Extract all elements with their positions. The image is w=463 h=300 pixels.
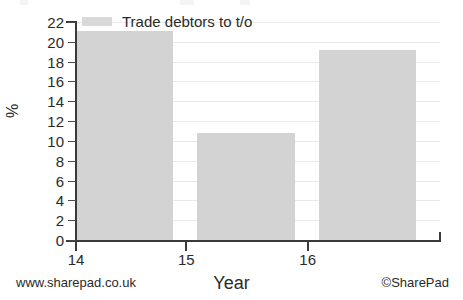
x-tick-label: 15 [166,252,206,267]
y-tick-mark [68,101,76,102]
plot-area [76,22,440,240]
y-tick-label: 22 [18,15,64,30]
y-tick-mark [68,181,76,182]
legend-label: Trade debtors to t/o [122,14,252,29]
y-tick-mark [68,62,76,63]
bar [319,50,416,240]
y-tick-label: 12 [18,114,64,129]
y-tick-label: 8 [18,154,64,169]
y-tick-mark [68,121,76,122]
footer-website: www.sharepad.co.uk [16,276,136,289]
x-tick-label: 14 [56,252,96,267]
y-tick-label: 16 [18,74,64,89]
y-tick-mark [68,240,76,241]
y-tick-label: 6 [18,174,64,189]
y-tick-mark [68,220,76,221]
y-tick-label: 14 [18,94,64,109]
y-tick-mark [68,42,76,43]
y-axis-line [75,21,77,242]
y-tick-label: 2 [18,213,64,228]
y-tick-label: 18 [18,55,64,70]
chart-legend: Trade debtors to t/o [82,14,252,29]
x-tick-mark [307,242,309,251]
x-tick-mark [75,242,77,251]
y-axis-title: % [4,104,22,118]
footer-copyright: ©SharePad [382,276,449,289]
scan-artifact [20,0,28,5]
legend-swatch-icon [82,17,112,26]
y-tick-label: 4 [18,193,64,208]
scan-artifact [180,0,194,5]
y-tick-mark [68,200,76,201]
scan-artifact [240,0,250,5]
bar [197,133,294,240]
x-tick-label: 16 [288,252,328,267]
y-tick-label: 0 [18,233,64,248]
chart-container: 0246810121416182022 141516 % Year Trade … [0,0,463,300]
y-tick-mark [68,141,76,142]
bar [76,31,173,240]
y-tick-label: 10 [18,134,64,149]
x-tick-mark [185,242,187,251]
y-tick-mark [68,22,76,23]
y-tick-mark [68,81,76,82]
x-axis-right-cap [439,232,441,242]
y-tick-mark [68,161,76,162]
y-tick-label: 20 [18,35,64,50]
x-axis-line [66,240,441,242]
